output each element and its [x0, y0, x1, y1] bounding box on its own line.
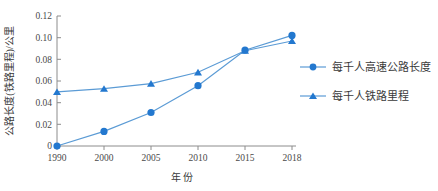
x-tick-label-2010: 2010: [189, 153, 208, 163]
x-tick-label-2018: 2018: [283, 153, 302, 163]
y-tick-label-4: 0.08: [35, 55, 52, 65]
y-tick-label-6: 0.12: [35, 11, 52, 21]
y-tick-label-0: 0: [47, 141, 52, 151]
data-point-marker: [288, 32, 295, 39]
x-axis-title: 年 份: [171, 171, 194, 183]
x-axis-ticks: [57, 146, 292, 150]
legend-item-highway[interactable]: 每千人高速公路长度: [300, 60, 431, 73]
legend-label-highway: 每千人高速公路长度: [332, 60, 431, 73]
data-point-marker: [194, 69, 202, 76]
y-axis-ticks: [57, 16, 61, 146]
y-tick-label-3: 0.06: [35, 76, 52, 86]
data-point-marker: [100, 128, 107, 135]
data-point-marker: [194, 82, 201, 89]
y-axis-title: 公路长度(铁路里程)/公里: [3, 26, 16, 135]
legend-circle-marker-icon: [310, 64, 317, 71]
x-tick-label-2005: 2005: [142, 153, 161, 163]
line-chart: 0 0.02 0.04 0.06 0.08 0.10 0.12 1990 200…: [0, 0, 438, 191]
x-tick-label-2015: 2015: [236, 153, 255, 163]
series-highway-markers: [53, 32, 295, 150]
x-tick-label-1990: 1990: [48, 153, 67, 163]
data-point-marker: [53, 142, 60, 149]
legend: 每千人高速公路长度 每千人铁路里程: [300, 60, 431, 102]
x-tick-label-2000: 2000: [95, 153, 114, 163]
data-point-marker: [147, 109, 154, 116]
legend-item-railway[interactable]: 每千人铁路里程: [300, 89, 409, 102]
series-railway-line: [57, 41, 292, 92]
legend-label-railway: 每千人铁路里程: [332, 89, 409, 102]
series-highway-line: [57, 35, 292, 146]
y-tick-label-5: 0.10: [35, 33, 52, 43]
chart-container: 0 0.02 0.04 0.06 0.08 0.10 0.12 1990 200…: [0, 0, 438, 191]
y-tick-label-2: 0.04: [35, 98, 52, 108]
data-point-marker: [241, 47, 248, 54]
y-tick-label-1: 0.02: [35, 120, 52, 130]
